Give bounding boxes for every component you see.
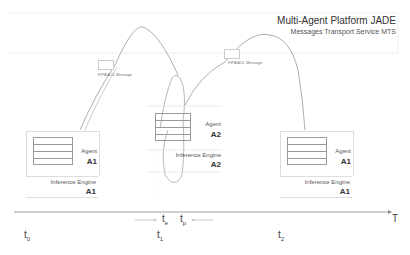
message-envelope-icon [224,49,240,59]
engine-id: A1 [340,187,350,196]
tp-marker: tp [180,213,186,226]
diagram-lines [0,0,410,255]
agent-label: Agent [195,121,221,127]
message-queue-icon [287,137,327,165]
agent-label: Agent [81,148,97,154]
engine-id: A2 [170,160,221,169]
engine-id: A1 [86,187,96,196]
agent-id: A1 [87,157,97,166]
agent-id: A2 [195,130,221,139]
message-queue-icon [33,137,73,165]
message-label: FIPA ACL Message [98,72,132,77]
platform-subtitle: Messages Transport Service MTS [291,28,396,35]
message-queue-icon [155,113,191,141]
message-label: FIPA ACL Message [228,60,262,65]
engine-label: Inference Engine [51,179,96,185]
engine-label: Inference Engine [170,152,221,158]
agent-id: A1 [341,157,351,166]
tick-t1: t1 [157,229,163,242]
platform-title: Multi-Agent Platform JADE [277,15,396,26]
time-axis-label: T [392,213,398,224]
agent-label: Agent [335,148,351,154]
engine-label: Inference Engine [305,179,350,185]
agent-box: Agent A1 [26,131,100,176]
inference-engine-box: Inference Engine A1 [280,176,352,198]
te-marker: te [162,213,168,226]
agent-box: Agent A1 [280,131,354,176]
tick-t2: t2 [278,229,284,242]
inference-engine-box: Inference Engine A1 [26,176,98,198]
tick-t0: t0 [24,229,30,242]
message-envelope-icon [98,60,114,70]
